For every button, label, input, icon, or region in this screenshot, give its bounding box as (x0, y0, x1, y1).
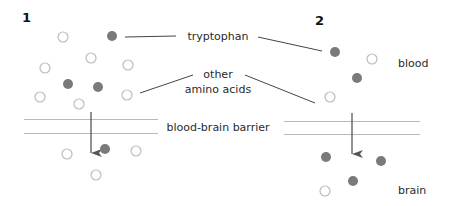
amino-acid-molecule-icon (131, 146, 141, 156)
amino-acid-molecule-icon (123, 60, 133, 70)
amino-acid-molecule-icon (58, 32, 68, 42)
tryptophan-molecule-icon (330, 47, 340, 57)
tryptophan-molecule-icon (93, 82, 103, 92)
tryptophan-label: tryptophan (187, 30, 248, 43)
amino-acid-molecule-icon (35, 92, 45, 102)
amino-acid-molecule-icon (91, 170, 101, 180)
blood-label: blood (398, 57, 428, 70)
tryptophan-molecule-icon (107, 31, 117, 41)
amino-acid-molecule-icon (86, 53, 96, 63)
other-label-line2: amino acids (185, 83, 252, 96)
tryptophan-molecule-icon (100, 144, 110, 154)
brain-label: brain (398, 184, 426, 197)
amino-acid-molecule-icon (325, 92, 335, 102)
tryptophan-leader-left (125, 36, 176, 37)
amino-acid-molecule-icon (122, 90, 132, 100)
tryptophan-transport-diagram: 1 2 tryptophan other amino acids blood-b… (0, 0, 453, 206)
amino-acid-molecule-icon (367, 54, 377, 64)
panel-1-number: 1 (22, 10, 31, 25)
other-label-line1: other (203, 68, 233, 81)
panel-2-number: 2 (315, 13, 324, 28)
other-leader-right (245, 75, 315, 103)
amino-acid-molecule-icon (40, 63, 50, 73)
tryptophan-molecule-icon (63, 79, 73, 89)
tryptophan-molecule-icon (348, 176, 358, 186)
tryptophan-leader-right (258, 37, 322, 51)
amino-acid-molecule-icon (62, 149, 72, 159)
tryptophan-molecule-icon (376, 156, 386, 166)
tryptophan-molecule-icon (352, 73, 362, 83)
barrier-label: blood-brain barrier (166, 121, 270, 134)
amino-acid-molecule-icon (74, 99, 84, 109)
tryptophan-molecule-icon (321, 152, 331, 162)
molecules (35, 31, 386, 196)
amino-acid-molecule-icon (320, 186, 330, 196)
